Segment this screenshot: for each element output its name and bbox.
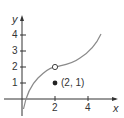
x-tick-label-2: 2	[52, 103, 58, 113]
y-tick-label-4: 4	[12, 30, 18, 40]
x-tick-label-4: 4	[85, 103, 91, 113]
x-axis-label: x	[113, 103, 119, 114]
filled-point	[53, 81, 58, 86]
y-axis-label: y	[12, 14, 18, 25]
y-axis-arrow-icon	[20, 15, 24, 21]
point-label: (2, 1)	[61, 78, 84, 88]
x-axis-arrow-icon	[112, 97, 118, 101]
function-graph	[0, 0, 124, 118]
y-tick-label-2: 2	[12, 62, 18, 72]
y-tick-label-3: 3	[12, 46, 18, 56]
y-tick-label-1: 1	[12, 78, 18, 88]
function-curve	[24, 34, 102, 109]
open-point-hole	[52, 64, 57, 69]
